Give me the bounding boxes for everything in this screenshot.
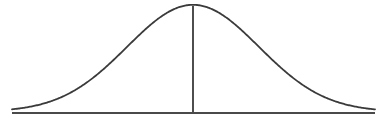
bell-curve-diagram	[0, 0, 386, 121]
